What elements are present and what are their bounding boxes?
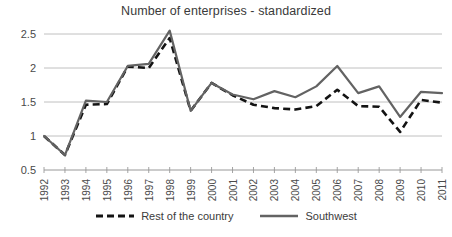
x-tick-label: 2000 [207,179,218,202]
legend-item-southwest: Southwest [259,210,356,222]
x-tick-label: 2002 [248,179,259,202]
legend-label-rest-of-the-country: Rest of the country [141,210,233,222]
chart-container: Number of enterprises - standardized 0.5… [0,0,452,237]
x-tick-label: 2009 [395,179,406,202]
line-chart-plot: 0.511.522.5 1992199319941995199619971998… [0,0,452,237]
x-tick-label: 1993 [60,179,71,202]
x-tick-label: 2006 [332,179,343,202]
x-tick-label: 2008 [374,179,385,202]
x-tick-label: 1998 [165,179,176,202]
x-tick-label: 1996 [123,179,134,202]
x-tick-label: 2003 [269,179,280,202]
x-tick-label: 1995 [102,179,113,202]
x-tick-label: 2010 [416,179,427,202]
y-tick-label: 2.5 [21,28,36,40]
dashed-line-swatch-icon [95,211,135,221]
x-tick-label: 2004 [290,179,301,202]
x-tick-label: 1997 [144,179,155,202]
x-tick-label: 2011 [437,179,448,201]
legend-item-rest-of-the-country: Rest of the country [95,210,233,222]
x-axis-tick-labels: 1992199319941995199619971998199920002001… [39,167,448,201]
x-tick-label: 2007 [353,179,364,202]
chart-legend: Rest of the country Southwest [0,210,452,222]
x-tick-label: 2001 [228,179,239,202]
solid-line-swatch-icon [259,211,299,221]
legend-label-southwest: Southwest [305,210,356,222]
x-tick-label: 2005 [311,179,322,202]
y-tick-label: 1.5 [21,96,36,108]
x-tick-label: 1999 [186,179,197,202]
y-tick-label: 1 [30,130,36,142]
y-axis-tick-labels: 0.511.522.5 [21,28,36,176]
x-tick-label: 1992 [39,179,50,202]
y-tick-label: 2 [30,62,36,74]
y-tick-label: 0.5 [21,164,36,176]
x-tick-label: 1994 [81,179,92,202]
